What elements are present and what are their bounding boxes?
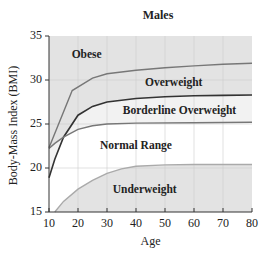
bmi-chart: Males Body-Mass Index (BMI) Age 15202530… — [0, 0, 264, 256]
x-tick-label: 60 — [184, 216, 204, 231]
x-tick-label: 30 — [97, 216, 117, 231]
y-tick-label: 35 — [22, 28, 42, 43]
y-tick-label: 20 — [22, 160, 42, 175]
region-label-underweight: Underweight — [113, 183, 177, 195]
y-tick-label: 30 — [22, 72, 42, 87]
x-tick-label: 40 — [126, 216, 146, 231]
region-label-overweight: Overweight — [145, 76, 202, 88]
x-tick-label: 80 — [242, 216, 262, 231]
x-tick-label: 20 — [68, 216, 88, 231]
region-label-obese: Obese — [72, 48, 102, 60]
y-tick-label: 25 — [22, 116, 42, 131]
x-tick-label: 10 — [39, 216, 59, 231]
region-label-normal-range: Normal Range — [100, 139, 172, 151]
region-label-borderline-overweight: Borderline Overweight — [123, 104, 236, 116]
x-tick-label: 50 — [155, 216, 175, 231]
x-tick-label: 70 — [213, 216, 233, 231]
